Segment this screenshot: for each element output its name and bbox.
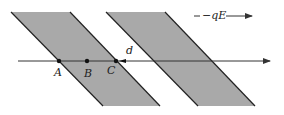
distance-arrow-icon — [119, 59, 126, 63]
point-c — [114, 59, 118, 63]
point-label-a: A — [53, 66, 62, 79]
point-label-b: B — [83, 67, 92, 80]
diagram-svg: ABC d −qE — [0, 0, 284, 115]
diagram-canvas: ABC d −qE — [0, 0, 284, 115]
point-a — [57, 59, 61, 63]
point-b — [85, 59, 89, 63]
distance-label-d: d — [126, 44, 133, 57]
force-label-qE: −qE — [202, 9, 226, 22]
point-label-c: C — [107, 64, 116, 77]
